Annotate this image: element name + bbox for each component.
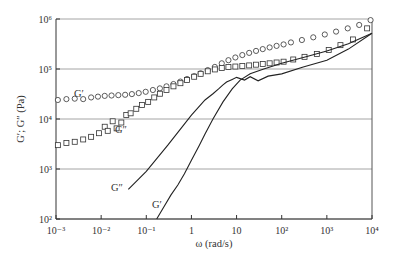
gdoubleprime-point xyxy=(267,61,272,66)
gprime-point xyxy=(150,87,155,92)
gridlines xyxy=(56,19,372,219)
x-tick-label: 10⁴ xyxy=(365,225,379,236)
gdoubleprime-point xyxy=(178,81,183,86)
gdoubleprime-point xyxy=(171,84,176,89)
gdoubleprime-point xyxy=(152,95,157,100)
gprime-point xyxy=(102,93,107,98)
gprime-point xyxy=(116,93,121,98)
gprime-point xyxy=(143,89,148,94)
x-tick-label: 10⁻³ xyxy=(47,225,65,236)
gprime-point xyxy=(64,97,69,102)
gdoubleprime-point xyxy=(365,26,370,31)
gdoubleprime-point xyxy=(157,91,162,96)
x-tick-label: 10 xyxy=(232,225,242,236)
gprime-point xyxy=(233,55,238,60)
gprime-point xyxy=(281,42,286,47)
line-gdoubleprime xyxy=(128,33,372,189)
gprime-point xyxy=(157,86,162,91)
gdoubleprime-point xyxy=(55,143,60,148)
y-tick-label: 10² xyxy=(39,214,52,225)
gdoubleprime-point xyxy=(192,74,197,79)
x-tick-label: 1 xyxy=(189,225,194,236)
gprime-point xyxy=(136,90,141,95)
gprime-point xyxy=(95,94,100,99)
x-tick-label: 10⁻¹ xyxy=(137,225,155,236)
gdoubleprime-point xyxy=(72,139,77,144)
y-tick-label: 10⁶ xyxy=(39,14,53,25)
line-gprime xyxy=(157,33,372,219)
x-tick-label: 10² xyxy=(275,225,288,236)
gdoubleprime-point xyxy=(139,103,144,108)
gprime-point xyxy=(123,92,128,97)
gdoubleprime-point xyxy=(105,128,110,133)
gprime-point xyxy=(240,52,245,57)
gdoubleprime-point xyxy=(205,69,210,74)
gdoubleprime-point xyxy=(89,134,94,139)
y-axis-title: G′; G″ (Pa) xyxy=(15,95,27,143)
label-gdoubleprime-symbols: G″ xyxy=(115,124,127,135)
x-tick-label: 10³ xyxy=(320,225,333,236)
gdoubleprime-point xyxy=(81,137,86,142)
y-tick-label: 10³ xyxy=(39,164,52,175)
label-gprime-symbols: G′ xyxy=(74,88,84,99)
gprime-point xyxy=(299,37,304,42)
gprime-point xyxy=(253,48,258,53)
gdoubleprime-point xyxy=(198,71,203,76)
gdoubleprime-point xyxy=(212,67,217,72)
data-series xyxy=(55,18,373,219)
gprime-point xyxy=(260,47,265,52)
gprime-point xyxy=(89,95,94,100)
gdoubleprime-point xyxy=(97,131,102,136)
gprime-point xyxy=(274,43,279,48)
gprime-point xyxy=(288,40,293,45)
label-gdoubleprime-line: G″ xyxy=(111,182,123,193)
gdoubleprime-point xyxy=(164,88,169,93)
rheology-chart: 10⁻³10⁻²10⁻¹11010²10³10⁴10²10³10⁴10⁵10⁶ … xyxy=(0,0,397,262)
gprime-point xyxy=(55,97,60,102)
gdoubleprime-point xyxy=(219,65,224,70)
gdoubleprime-point xyxy=(128,111,133,116)
gdoubleprime-point xyxy=(247,63,252,68)
gprime-point xyxy=(109,93,114,98)
gprime-point xyxy=(311,35,316,40)
gprime-point xyxy=(322,32,327,37)
gprime-point xyxy=(267,45,272,50)
y-tick-label: 10⁴ xyxy=(39,114,53,125)
gdoubleprime-point xyxy=(260,61,265,66)
gprime-point xyxy=(368,18,373,23)
y-tick-label: 10⁵ xyxy=(39,64,53,75)
gdoubleprime-point xyxy=(240,63,245,68)
gdoubleprime-point xyxy=(185,78,190,83)
gprime-point xyxy=(357,22,362,27)
label-gprime-line: G′ xyxy=(152,199,162,210)
gprime-point xyxy=(247,50,252,55)
gdoubleprime-point xyxy=(134,106,139,111)
gprime-point xyxy=(226,58,231,63)
gdoubleprime-point xyxy=(146,99,151,104)
gdoubleprime-point xyxy=(226,64,231,69)
gdoubleprime-point xyxy=(254,62,259,67)
gprime-point xyxy=(333,29,338,34)
gprime-point xyxy=(345,26,350,31)
x-tick-label: 10⁻² xyxy=(92,225,110,236)
gprime-point xyxy=(129,91,134,96)
x-axis-title: ω (rad/s) xyxy=(196,238,233,250)
gdoubleprime-point xyxy=(233,64,238,69)
gdoubleprime-point xyxy=(64,141,69,146)
